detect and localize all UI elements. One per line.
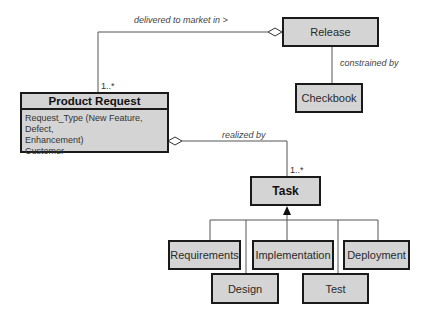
association-label-delivered: delivered to market in > <box>134 15 228 25</box>
aggregation-diamond-icon <box>268 28 282 36</box>
association-label-realized: realized by <box>222 130 266 140</box>
multiplicity-realized: 1..* <box>290 165 304 175</box>
class-requirements[interactable]: Requirements <box>168 240 241 270</box>
generalization-arrow-icon <box>283 206 291 215</box>
association-label-constrained: constrained by <box>340 58 399 68</box>
aggregation-diamond-icon <box>168 137 182 145</box>
class-design[interactable]: Design <box>211 273 279 304</box>
multiplicity-delivered: 1..* <box>101 81 115 91</box>
class-task[interactable]: Task <box>250 176 321 206</box>
class-release[interactable]: Release <box>282 17 379 47</box>
class-test[interactable]: Test <box>302 273 369 304</box>
class-checkbook[interactable]: Checkbook <box>295 83 363 113</box>
class-attributes: Request_Type (New Feature, Defect, Enhan… <box>22 110 167 160</box>
class-product-request[interactable]: Product Request Request_Type (New Featur… <box>20 92 169 153</box>
class-deployment[interactable]: Deployment <box>343 240 410 270</box>
attribute: Enhancement) <box>25 135 164 146</box>
attribute: Customer <box>25 146 164 157</box>
attribute: Request_Type (New Feature, Defect, <box>25 113 164 135</box>
class-implementation[interactable]: Implementation <box>252 240 334 270</box>
class-name: Product Request <box>22 94 167 110</box>
